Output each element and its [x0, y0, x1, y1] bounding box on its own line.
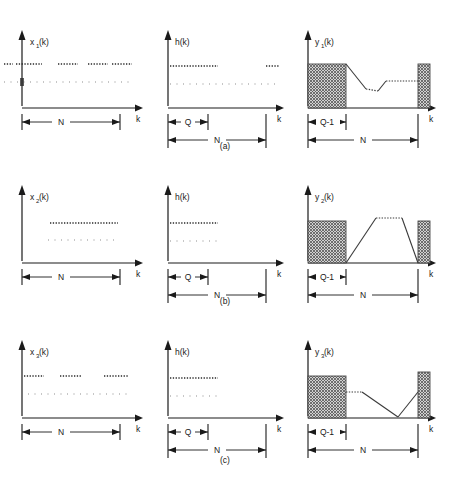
span-label-N: N [58, 117, 64, 127]
discard-block-right [418, 221, 430, 263]
output-curve-rise [346, 218, 376, 263]
row-caption-a: (a) [0, 141, 450, 151]
span-label-N: N [58, 427, 64, 437]
y-axis-label: h(k) [175, 347, 190, 357]
discard-block-left [308, 376, 346, 418]
y-axis-label-arg: (k) [324, 192, 334, 202]
figure-root: N k x 1 (k) [0, 0, 450, 489]
output-curve-seg3 [378, 81, 386, 91]
discard-label: Q-1 [320, 117, 334, 127]
y-axis-label-base: y [315, 347, 320, 357]
y-axis-label-arg: (k) [39, 347, 49, 357]
y-axis-label: h(k) [175, 192, 190, 202]
discard-label: Q-1 [320, 272, 334, 282]
x-axis-label: k [429, 424, 434, 434]
short-span-label-Q: Q [185, 427, 192, 437]
y-axis-label-arg: (k) [39, 37, 49, 47]
discard-label: Q-1 [320, 427, 334, 437]
output-curve-rise [398, 392, 418, 417]
y-axis-label-base: x [30, 192, 35, 202]
x-axis-label: k [136, 424, 141, 434]
output-curve-fall [362, 392, 398, 417]
discard-block-right [418, 372, 430, 418]
y-axis-label-base: x [30, 347, 35, 357]
x-axis-label: k [136, 269, 141, 279]
y-axis-label-arg: (k) [324, 347, 334, 357]
short-span-label-Q: Q [185, 117, 192, 127]
x-axis-label: k [277, 114, 282, 124]
output-curve-seg2 [366, 89, 378, 91]
row-caption-c: (c) [0, 455, 450, 465]
y-axis-label-base: y [315, 192, 320, 202]
y-axis-label-base: y [315, 37, 320, 47]
short-span-label-Q: Q [185, 272, 192, 282]
y-axis-label-base: x [30, 37, 35, 47]
x-axis-label: k [277, 269, 282, 279]
output-curve-fall [402, 218, 418, 263]
row-caption-b: (b) [0, 296, 450, 306]
y-axis-label: h(k) [175, 37, 190, 47]
x-axis-label: k [429, 114, 434, 124]
output-curve-seg1 [346, 64, 366, 89]
x-axis-label: k [277, 424, 282, 434]
y-axis-label-arg: (k) [39, 192, 49, 202]
discard-block-left [308, 64, 346, 108]
span-label-N: N [360, 445, 366, 455]
discard-block-left [308, 221, 346, 263]
long-span-label-N: N [214, 445, 220, 455]
discard-block-right [418, 64, 430, 108]
span-label-N: N [58, 272, 64, 282]
x-axis-label: k [136, 114, 141, 124]
y-axis-label-arg: (k) [324, 37, 334, 47]
x-axis-label: k [429, 269, 434, 279]
